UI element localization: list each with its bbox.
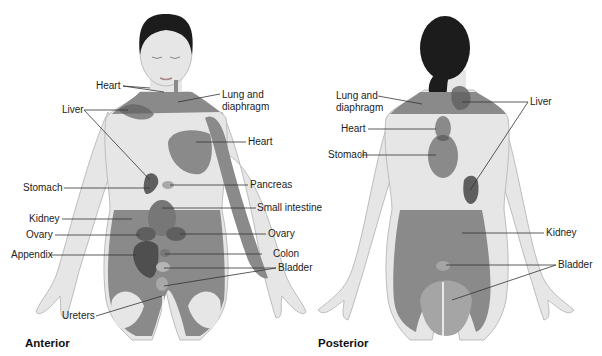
label-posterior-kidney: Kidney bbox=[546, 227, 577, 239]
posterior-figure bbox=[318, 16, 574, 340]
posterior-view-title: Posterior bbox=[318, 337, 369, 349]
anterior-colon bbox=[160, 249, 170, 257]
anterior-ovary-left bbox=[136, 227, 156, 241]
label-anterior-ovary-right: Ovary bbox=[268, 228, 295, 240]
label-posterior-stomach: Stomach bbox=[328, 149, 367, 161]
label-anterior-small-intestine: Small intestine bbox=[257, 202, 322, 214]
anterior-figure bbox=[36, 14, 306, 340]
posterior-lung-zone bbox=[390, 92, 506, 114]
label-posterior-liver: Liver bbox=[530, 96, 552, 108]
anterior-bladder bbox=[156, 262, 170, 272]
label-posterior-lung: Lung and diaphragm bbox=[336, 90, 383, 114]
label-posterior-bladder: Bladder bbox=[558, 259, 592, 271]
label-posterior-heart: Heart bbox=[341, 123, 365, 135]
anterior-ureters bbox=[156, 277, 168, 291]
anterior-view-title: Anterior bbox=[25, 337, 70, 349]
label-anterior-kidney: Kidney bbox=[29, 213, 60, 225]
label-anterior-ovary-left: Ovary bbox=[26, 229, 53, 241]
label-anterior-stomach: Stomach bbox=[23, 182, 62, 194]
label-anterior-heart-top: Heart bbox=[96, 80, 120, 92]
label-anterior-pancreas: Pancreas bbox=[250, 179, 292, 191]
label-anterior-colon: Colon bbox=[273, 248, 299, 260]
label-anterior-lung: Lung and diaphragm bbox=[222, 89, 269, 113]
posterior-head bbox=[420, 16, 470, 80]
label-anterior-ureters: Ureters bbox=[62, 310, 95, 322]
label-anterior-heart: Heart bbox=[248, 136, 272, 148]
label-anterior-liver: Liver bbox=[62, 104, 84, 116]
anterior-heart-neck-zone bbox=[174, 80, 178, 96]
label-anterior-bladder: Bladder bbox=[278, 262, 312, 274]
body-diagram bbox=[0, 0, 602, 356]
posterior-bladder-zone bbox=[436, 261, 450, 271]
label-anterior-appendix: Appendix bbox=[11, 249, 53, 261]
